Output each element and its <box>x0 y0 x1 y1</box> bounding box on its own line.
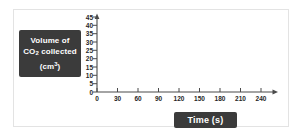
y-axis-title-line2: CO2 collected <box>23 46 77 59</box>
y-tick-10: 10 <box>79 72 93 79</box>
y-tick-40: 40 <box>79 22 93 29</box>
y-tick-35: 35 <box>79 30 93 37</box>
y-tick-15: 15 <box>79 64 93 71</box>
x-tick-0: 0 <box>87 95 107 103</box>
x-tick-210: 210 <box>231 95 251 103</box>
y-axis-title-line2-post: collected <box>39 47 77 56</box>
y-axis-title-line1: Volume of <box>31 35 70 46</box>
x-tick-240: 240 <box>251 95 271 103</box>
y-tick-30: 30 <box>79 39 93 46</box>
x-tick-120: 120 <box>169 95 189 103</box>
y-tick-45: 45 <box>79 14 93 21</box>
x-axis-title: Time (s) <box>174 112 237 128</box>
y-tick-25: 25 <box>79 47 93 54</box>
x-axis-title-label: Time (s) <box>188 115 224 125</box>
y-axis-title-line3-post: ) <box>58 62 61 71</box>
x-tick-90: 90 <box>149 95 169 103</box>
chart-figure: 0 5 10 15 20 25 30 35 40 45 0 30 60 90 1… <box>0 0 302 137</box>
y-axis-title: Volume of CO2 collected (cm3) <box>19 30 81 77</box>
x-tick-60: 60 <box>128 95 148 103</box>
x-tick-150: 150 <box>190 95 210 103</box>
y-axis-title-line3-pre: (cm <box>40 62 55 71</box>
x-tick-30: 30 <box>108 95 128 103</box>
y-tick-20: 20 <box>79 55 93 62</box>
x-tick-180: 180 <box>210 95 230 103</box>
y-axis-title-line2-pre: CO <box>23 47 35 56</box>
y-axis-title-line3: (cm3) <box>40 59 61 72</box>
y-tick-5: 5 <box>79 80 93 87</box>
